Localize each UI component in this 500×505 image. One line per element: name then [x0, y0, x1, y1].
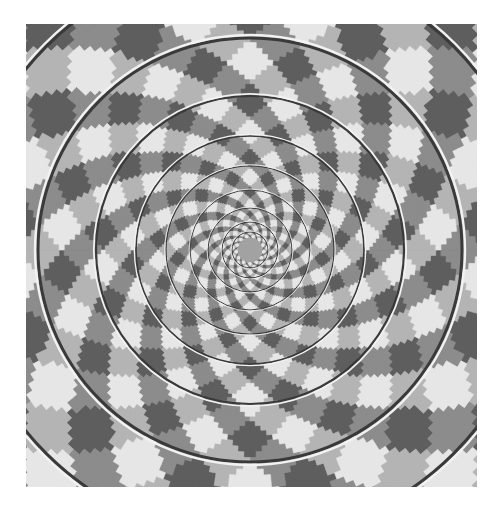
center-disc	[238, 238, 262, 262]
illusion-graphic	[26, 24, 477, 487]
fraser-spiral-illusion	[26, 24, 477, 487]
